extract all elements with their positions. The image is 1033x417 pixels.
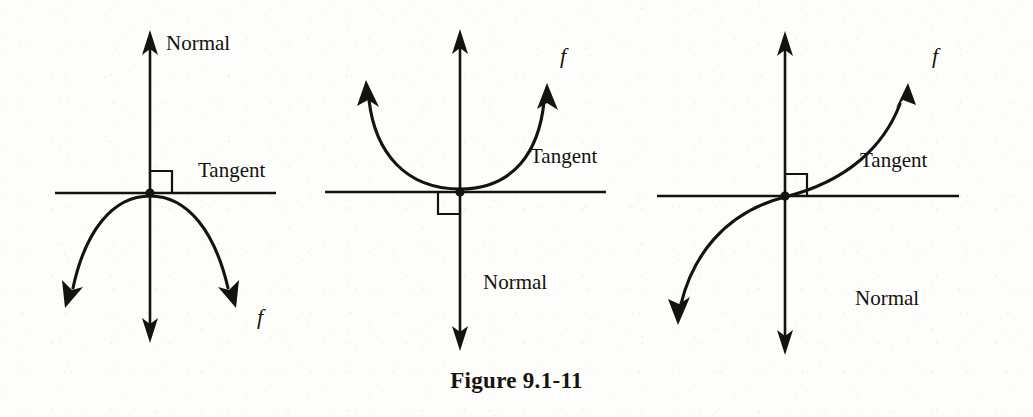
origin-point [780, 191, 789, 200]
panel3-tangent-label: Tangent [860, 150, 927, 171]
panel3-function-label: f [932, 45, 938, 67]
panel3-normal-label: Normal [855, 288, 919, 309]
panel-inflection [0, 0, 1033, 417]
figure-page: Normal Tangent f Tangent Normal f [0, 0, 1033, 417]
function-curve [681, 104, 900, 304]
curve-lower-left-arrowhead [668, 297, 690, 325]
curve-upper-right-arrowhead [896, 83, 916, 108]
figure-caption: Figure 9.1-11 [0, 368, 1033, 394]
